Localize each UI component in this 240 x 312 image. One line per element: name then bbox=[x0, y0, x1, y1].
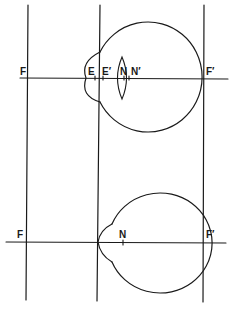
principal-plane-line bbox=[97, 5, 100, 301]
label-f-prime-top: F′ bbox=[206, 66, 215, 77]
top-cornea-bulge bbox=[85, 52, 100, 102]
label-n-prime: N′ bbox=[131, 66, 141, 77]
label-e: E bbox=[88, 66, 95, 77]
front-focal-plane-line bbox=[26, 5, 28, 300]
label-n-bottom: N bbox=[119, 229, 126, 240]
eye-optics-diagram: F E E′ N N′ F′ F N F′ bbox=[0, 0, 240, 312]
label-f-top: F bbox=[20, 66, 26, 77]
top-globe-outline bbox=[100, 22, 202, 132]
top-eye-model: F E E′ N N′ F′ bbox=[20, 22, 228, 132]
label-f-bottom: F bbox=[17, 229, 23, 240]
bottom-eye-model: F N F′ bbox=[6, 193, 226, 293]
label-e-prime: E′ bbox=[102, 66, 112, 77]
label-n-top: N bbox=[120, 66, 127, 77]
back-focal-plane-line bbox=[203, 5, 204, 302]
label-f-prime-bottom: F′ bbox=[206, 229, 215, 240]
bottom-optical-axis bbox=[6, 242, 226, 243]
